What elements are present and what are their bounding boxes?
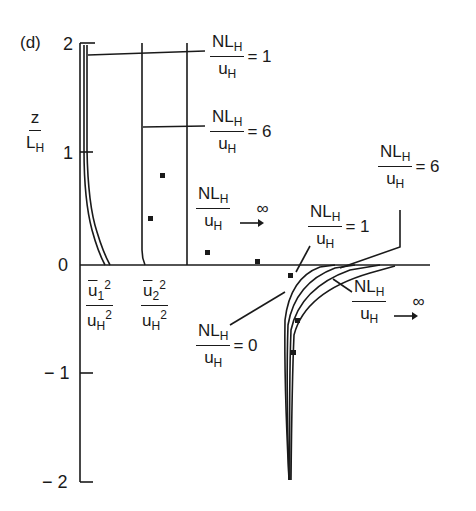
u-sub: H xyxy=(214,356,223,370)
u2-den-sub: H xyxy=(151,319,160,333)
tick-label-0: 0 xyxy=(58,256,68,274)
nl-sub: H xyxy=(376,285,385,299)
u-text: u xyxy=(204,211,213,230)
data-point xyxy=(288,273,293,278)
annotation-lower-6: NLH uH = 6 xyxy=(378,142,440,191)
nl-text: NL xyxy=(198,184,220,203)
annotation-lower-0: NLH uH = 0 xyxy=(196,321,258,370)
u1-den-sub: H xyxy=(96,319,105,333)
u1-den-sup: 2 xyxy=(105,308,112,322)
u-sub: H xyxy=(228,142,237,156)
u-sub: H xyxy=(326,237,335,251)
annotation-value: = 0 xyxy=(233,336,257,356)
u2-profile-line-a xyxy=(142,43,145,265)
u1-profile-outer xyxy=(87,45,110,265)
u-sub: H xyxy=(228,67,237,81)
y-label-den-sub: H xyxy=(35,141,44,155)
annotation-value: = 1 xyxy=(345,217,369,237)
annotation-value: = 6 xyxy=(415,157,439,177)
annotation-upper-6: NLH uH = 6 xyxy=(210,107,272,156)
u-text: u xyxy=(218,134,227,153)
nl-text: NL xyxy=(212,32,234,51)
leader-upper-6 xyxy=(143,126,205,127)
xlabel-u2: u22 uH2 xyxy=(141,278,168,333)
u-text: u xyxy=(316,229,325,248)
lower-curve-b xyxy=(287,265,355,480)
annotation-upper-inf: NLH uH ∞ xyxy=(196,184,269,233)
nl-sub: H xyxy=(332,210,341,224)
data-point xyxy=(291,350,296,355)
u-text: u xyxy=(360,304,369,323)
nl-sub: H xyxy=(220,192,229,206)
annotation-value: ∞ xyxy=(412,292,424,312)
tick-label-neg1: − 1 xyxy=(44,364,70,382)
xlabel-u1: u12 uH2 xyxy=(86,278,113,333)
nl-sub: H xyxy=(234,115,243,129)
annotation-value: ∞ xyxy=(256,199,268,219)
data-point xyxy=(205,250,210,255)
u-text: u xyxy=(218,59,227,78)
data-point xyxy=(295,318,300,323)
annotation-lower-inf: NLH uH ∞ xyxy=(352,277,425,326)
data-point xyxy=(255,259,260,264)
u1-num-sup: 2 xyxy=(104,278,111,292)
u-text: u xyxy=(386,169,395,188)
nl-text: NL xyxy=(310,202,332,221)
data-point xyxy=(148,216,153,221)
u2-den-sup: 2 xyxy=(160,308,167,322)
nl-text: NL xyxy=(198,321,220,340)
annotation-lower-1: NLH uH = 1 xyxy=(308,202,370,251)
tick-label-neg2: − 2 xyxy=(42,473,68,491)
nl-text: NL xyxy=(354,277,376,296)
annotation-value: = 6 xyxy=(247,122,271,142)
nl-sub: H xyxy=(234,40,243,54)
nl-text: NL xyxy=(212,107,234,126)
u-sub: H xyxy=(370,312,379,326)
y-label-num: z xyxy=(29,108,42,131)
tick-label-1: 1 xyxy=(63,144,73,162)
u-text: u xyxy=(204,348,213,367)
u-sub: H xyxy=(214,219,223,233)
nl-sub: H xyxy=(402,150,411,164)
annotation-upper-1: NLH uH = 1 xyxy=(210,32,272,81)
y-axis-label: z LH xyxy=(26,108,44,155)
nl-sub: H xyxy=(220,329,229,343)
panel-label: (d) xyxy=(20,34,41,51)
nl-text: NL xyxy=(380,142,402,161)
data-point xyxy=(160,173,165,178)
u-sub: H xyxy=(396,177,405,191)
annotation-value: = 1 xyxy=(247,47,271,67)
tick-label-2: 2 xyxy=(63,35,73,53)
u2-num-sup: 2 xyxy=(159,278,166,292)
